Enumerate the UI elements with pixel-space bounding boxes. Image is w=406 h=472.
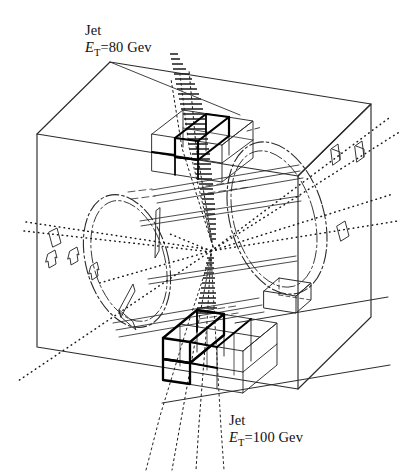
jet-top-et-symbol: E (85, 39, 94, 55)
detector-scene (0, 0, 406, 472)
detector-event-display-figure: Jet ET=80 Gev Jet ET=100 Gev (0, 0, 406, 472)
endcap-wedge-left (119, 208, 160, 330)
barrel-hidden-lines (128, 180, 250, 319)
jet-bottom-label: Jet ET=100 Gev (229, 412, 303, 449)
bottom-calorimeter-cluster (163, 310, 277, 393)
jet-top-et-value: =80 Gev (100, 39, 151, 55)
top-calorimeter-cluster (152, 110, 253, 182)
jet-top-label-energy: ET=80 Gev (85, 39, 152, 59)
jet-top-label: Jet ET=80 Gev (85, 22, 152, 59)
jet-top-label-title: Jet (85, 22, 152, 39)
jet-bottom-label-energy: ET=100 Gev (229, 429, 303, 449)
endcap-ring-left (69, 184, 185, 337)
jet-bottom-et-symbol: E (229, 429, 238, 445)
jet-bottom-et-value: =100 Gev (244, 429, 303, 445)
jet-bottom-label-title: Jet (229, 412, 303, 429)
isolated-calorimeter-cell (264, 278, 311, 313)
detector-bounding-box (37, 62, 371, 389)
particle-tracks (18, 118, 401, 381)
